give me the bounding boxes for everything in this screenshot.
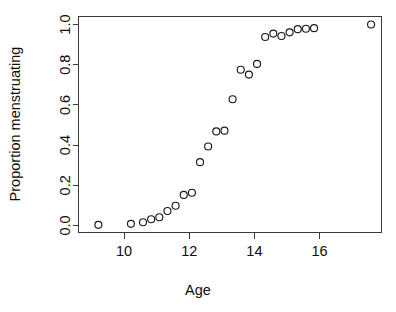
- data-point: [237, 66, 244, 73]
- data-point: [302, 25, 309, 32]
- y-axis-title: Proportion menstruating: [7, 47, 23, 202]
- data-point: [156, 214, 163, 221]
- y-tick-label: 0.8: [58, 55, 74, 75]
- x-axis: 10121416: [116, 233, 328, 259]
- y-tick-label: 0.4: [58, 135, 74, 155]
- y-axis: 0.00.20.40.60.81.0: [58, 14, 79, 235]
- data-point: [95, 221, 102, 228]
- y-tick-label: 0.2: [58, 175, 74, 195]
- data-point: [164, 208, 171, 215]
- data-point: [254, 60, 261, 67]
- data-point: [311, 25, 318, 32]
- scatter-plot: 10121416 0.00.20.40.60.81.0 Age Proporti…: [0, 0, 396, 312]
- x-tick-label: 16: [312, 243, 328, 259]
- y-tick-label: 1.0: [58, 14, 74, 34]
- x-tick-label: 14: [246, 243, 262, 259]
- plot-panel: [79, 17, 382, 233]
- data-point: [278, 32, 285, 39]
- data-point: [172, 202, 179, 209]
- data-points: [95, 21, 375, 228]
- data-point: [221, 127, 228, 134]
- data-point: [188, 189, 195, 196]
- x-tick-label: 10: [116, 243, 132, 259]
- data-point: [148, 216, 155, 223]
- x-tick-label: 12: [181, 243, 197, 259]
- data-point: [205, 143, 212, 150]
- data-point: [197, 159, 204, 166]
- data-point: [140, 219, 147, 226]
- data-point: [286, 29, 293, 36]
- data-point: [368, 21, 375, 28]
- data-point: [180, 191, 187, 198]
- plot-border: [79, 17, 382, 233]
- data-point: [127, 220, 134, 227]
- data-point: [294, 26, 301, 33]
- data-point: [213, 128, 220, 135]
- data-point: [270, 30, 277, 37]
- data-point: [229, 96, 236, 103]
- x-axis-title: Age: [185, 282, 211, 298]
- data-point: [245, 71, 252, 78]
- data-point: [262, 33, 269, 40]
- y-tick-label: 0.0: [58, 215, 74, 235]
- y-tick-label: 0.6: [58, 95, 74, 115]
- chart-container: 10121416 0.00.20.40.60.81.0 Age Proporti…: [0, 0, 396, 312]
